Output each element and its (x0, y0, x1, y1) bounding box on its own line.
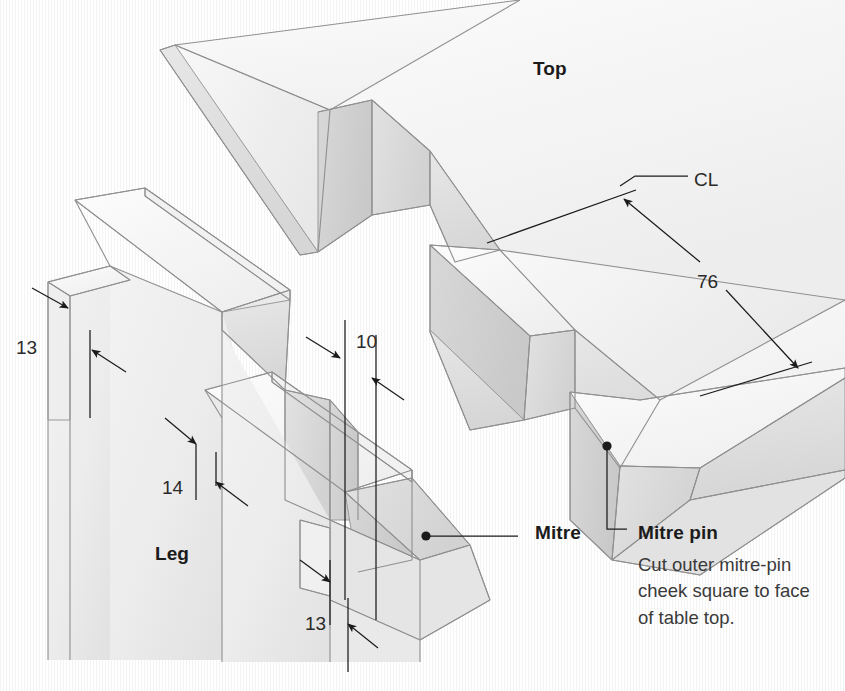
label-leg: Leg (155, 544, 189, 563)
mitre-pin-note-line-1: Cut outer mitre-pin (638, 552, 810, 578)
leg-main-body-face (110, 266, 222, 660)
label-top: Top (533, 59, 567, 78)
dimension-76: 76 (697, 272, 718, 291)
label-mitre-pin: Mitre pin (638, 523, 718, 542)
mitre-pin-note-line-3: of table top. (638, 605, 810, 631)
dimension-14: 14 (162, 478, 183, 497)
mitre-leader-dot (421, 531, 430, 540)
dimension-13-upper: 13 (16, 338, 37, 357)
mitre-pin-leader-dot (602, 441, 611, 450)
mitre-pin-note: Cut outer mitre-pin cheek square to face… (638, 552, 810, 631)
mitre-pin-note-line-2: cheek square to face (638, 578, 810, 604)
top-middle-block-right-face (524, 330, 575, 420)
dimension-10: 10 (356, 332, 377, 351)
diagram-canvas: Top Leg Mitre Mitre pin 13 14 10 13 76 C… (0, 0, 845, 691)
dimension-13-lower: 13 (305, 614, 326, 633)
centerline-label: CL (694, 170, 718, 189)
label-mitre: Mitre (535, 523, 581, 542)
leg-lower-notch (300, 520, 330, 596)
